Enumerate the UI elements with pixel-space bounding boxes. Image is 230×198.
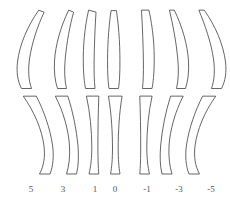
lens-top-power-3 <box>54 11 73 89</box>
lens-top-power-0 <box>108 11 120 89</box>
axis-label-power-minus-1: -1 <box>143 184 151 194</box>
lens-top-power-minus-3 <box>170 11 189 89</box>
axis-label-power-minus-3: -3 <box>175 184 183 194</box>
axis-label-power-0: 0 <box>113 184 118 194</box>
lens-bottom-power-minus-1 <box>140 97 152 175</box>
lens-top-power-minus-1 <box>142 11 155 89</box>
lens-diagram-canvas: 5 3 1 0 -1 -3 -5 <box>0 0 230 198</box>
axis-label-power-minus-5: -5 <box>207 184 215 194</box>
axis-label-power-3: 3 <box>61 184 66 194</box>
lens-bottom-power-1 <box>87 97 99 175</box>
axis-label-power-1: 1 <box>93 184 98 194</box>
lens-series-figure: 5 3 1 0 -1 -3 -5 <box>0 0 230 198</box>
lens-bottom-power-5 <box>24 97 54 175</box>
lens-top-power-minus-5 <box>199 11 226 89</box>
lens-top-power-5 <box>17 11 44 89</box>
lens-bottom-power-3 <box>56 97 79 175</box>
lens-bottom-power-minus-3 <box>160 97 183 175</box>
lens-bottom-power-0 <box>109 97 123 175</box>
lens-top-power-1 <box>83 11 96 89</box>
lens-bottom-power-minus-5 <box>186 97 216 175</box>
axis-label-power-5: 5 <box>29 184 34 194</box>
